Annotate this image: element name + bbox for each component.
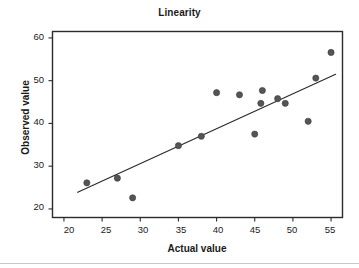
data-point bbox=[275, 96, 281, 102]
data-point bbox=[258, 100, 264, 106]
regression-line-segment bbox=[78, 74, 336, 192]
data-point bbox=[282, 100, 288, 106]
data-point bbox=[252, 131, 258, 137]
data-point bbox=[313, 75, 319, 81]
data-point bbox=[114, 175, 120, 181]
data-point bbox=[130, 195, 136, 201]
plot-canvas bbox=[0, 0, 359, 268]
data-point bbox=[84, 180, 90, 186]
data-point bbox=[259, 87, 265, 93]
data-point bbox=[175, 143, 181, 149]
regression-line bbox=[78, 74, 336, 192]
data-points bbox=[84, 49, 334, 201]
data-point bbox=[213, 90, 219, 96]
data-point bbox=[328, 49, 334, 55]
data-point bbox=[198, 133, 204, 139]
bottom-divider bbox=[0, 263, 359, 264]
plot-frame bbox=[53, 32, 343, 218]
data-point bbox=[236, 92, 242, 98]
data-point bbox=[305, 118, 311, 124]
linearity-scatter-chart: Linearity Observed value Actual value 60… bbox=[0, 0, 359, 268]
